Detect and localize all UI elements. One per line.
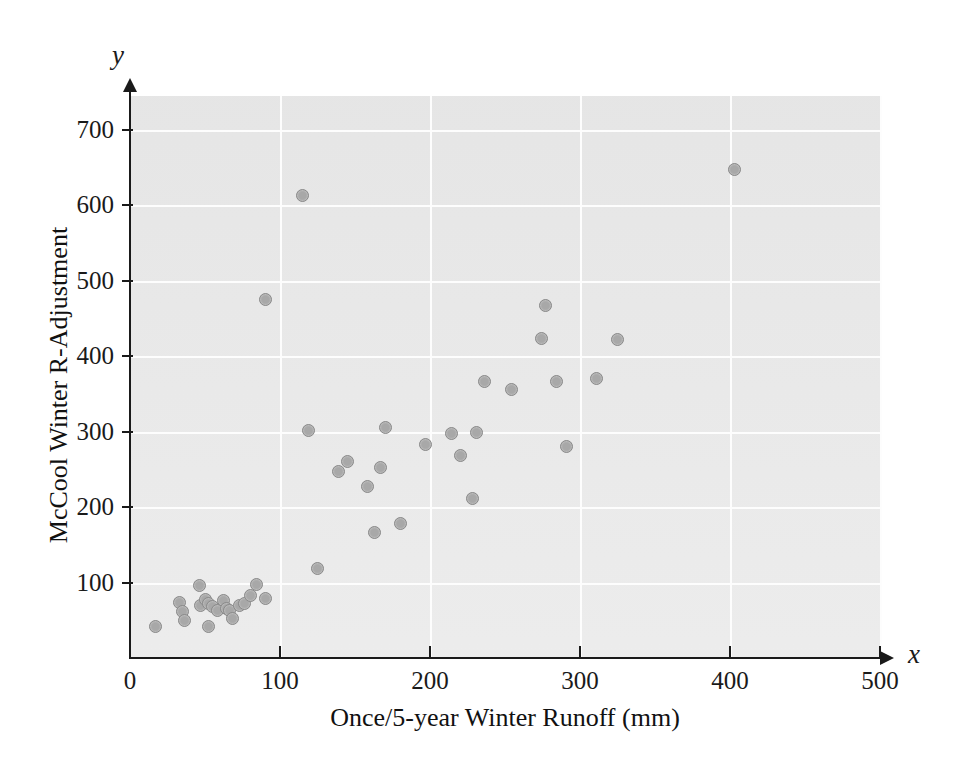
- x-tick-label-100: 100: [235, 668, 325, 693]
- x-tick-label-200: 200: [385, 668, 475, 693]
- data-point: [539, 299, 552, 312]
- y-tick-500: [122, 280, 133, 282]
- data-point: [470, 426, 483, 439]
- x-tick-label-0: 0: [85, 668, 175, 693]
- x-axis-title: Once/5-year Winter Runoff (mm): [130, 703, 880, 733]
- data-point: [374, 461, 387, 474]
- x-axis-variable-symbol: x: [908, 639, 920, 670]
- data-point: [478, 375, 491, 388]
- x-tick-label-400: 400: [685, 668, 775, 693]
- x-axis-arrowhead: [880, 651, 894, 665]
- gridline-y-300: [130, 432, 880, 434]
- data-point: [550, 375, 563, 388]
- data-point: [226, 612, 239, 625]
- gridline-x-300: [580, 96, 582, 658]
- x-tick-label-300: 300: [535, 668, 625, 693]
- data-point: [505, 383, 518, 396]
- y-tick-label-700: 700: [44, 117, 114, 142]
- data-point: [560, 440, 573, 453]
- data-point: [332, 465, 345, 478]
- gridline-y-600: [130, 205, 880, 207]
- data-point: [259, 592, 272, 605]
- data-point: [296, 189, 309, 202]
- data-point: [368, 526, 381, 539]
- y-axis-variable-symbol: y: [112, 40, 124, 71]
- x-tick-100: [279, 646, 281, 658]
- x-tick-500: [879, 646, 881, 658]
- gridline-y-100: [130, 583, 880, 585]
- y-axis-arrowhead: [123, 78, 137, 92]
- data-point: [250, 578, 263, 591]
- y-tick-100: [122, 582, 133, 584]
- gridline-x-100: [280, 96, 282, 658]
- data-point: [149, 620, 162, 633]
- plot-area: [130, 96, 880, 658]
- scatter-plot-figure: 100200300400500600700 0100200300400500 y…: [0, 0, 964, 773]
- data-point: [259, 293, 272, 306]
- data-point: [445, 427, 458, 440]
- y-axis-title: McCool Winter R-Adjustment: [44, 150, 74, 620]
- plot-background-texture: [130, 96, 880, 658]
- data-point: [244, 589, 257, 602]
- data-point: [202, 620, 215, 633]
- data-point: [728, 163, 741, 176]
- data-point: [361, 480, 374, 493]
- data-point: [611, 333, 624, 346]
- data-point: [302, 424, 315, 437]
- y-tick-200: [122, 506, 133, 508]
- gridline-y-200: [130, 507, 880, 509]
- data-point: [193, 579, 206, 592]
- data-point: [454, 449, 467, 462]
- gridline-y-400: [130, 356, 880, 358]
- data-point: [341, 455, 354, 468]
- data-point: [590, 372, 603, 385]
- gridline-x-400: [730, 96, 732, 658]
- data-point: [466, 492, 479, 505]
- data-point: [379, 421, 392, 434]
- gridline-y-700: [130, 130, 880, 132]
- data-point: [394, 517, 407, 530]
- x-tick-300: [579, 646, 581, 658]
- y-tick-700: [122, 129, 133, 131]
- x-tick-200: [429, 646, 431, 658]
- data-point: [178, 614, 191, 627]
- data-point: [535, 332, 548, 345]
- x-axis-line: [130, 657, 882, 659]
- y-tick-400: [122, 355, 133, 357]
- gridline-y-500: [130, 281, 880, 283]
- y-tick-600: [122, 204, 133, 206]
- gridline-x-200: [430, 96, 432, 658]
- x-tick-label-500: 500: [835, 668, 925, 693]
- data-point: [311, 562, 324, 575]
- x-tick-400: [729, 646, 731, 658]
- gridline-x-500: [880, 96, 882, 658]
- data-point: [419, 438, 432, 451]
- y-tick-300: [122, 431, 133, 433]
- y-axis-line: [129, 92, 131, 659]
